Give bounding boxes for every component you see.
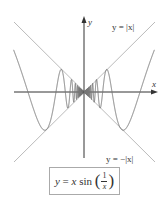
y-axis-arrow-icon — [82, 16, 87, 23]
formula-open-paren: ( — [95, 172, 101, 189]
upper-envelope-label: y = |x| — [112, 22, 134, 32]
y-axis-label: y — [87, 17, 92, 27]
formula-box: y = x sin ( 1 x ) — [49, 167, 120, 195]
formula-close-paren: ) — [108, 172, 114, 189]
x-axis-arrow-icon — [151, 90, 158, 95]
x-axis-label: x — [151, 79, 156, 89]
formula-numerator: 1 — [101, 172, 107, 182]
lower-envelope-label: y = −|x| — [106, 154, 133, 164]
formula-fraction: 1 x — [101, 172, 107, 191]
formula-equals: = — [60, 175, 72, 187]
formula-denominator: x — [103, 182, 107, 191]
formula-sin: sin — [76, 175, 94, 187]
